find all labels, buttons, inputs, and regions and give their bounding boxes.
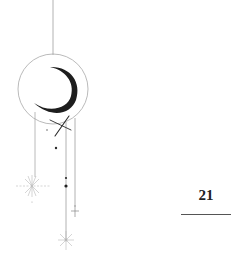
dot-icon [65, 177, 67, 179]
page-number: 21 [181, 186, 231, 204]
page-number-underline [181, 214, 231, 215]
moon-star-ornament [0, 0, 242, 262]
dot-icon [64, 184, 67, 187]
dot-icon [46, 129, 47, 130]
dot-icon [55, 147, 57, 149]
sparkle-icon [16, 175, 50, 197]
circle-frame [18, 54, 88, 124]
crescent-moon-icon [34, 67, 78, 113]
dot-icon [31, 201, 32, 202]
star-cross-icon [50, 116, 71, 136]
small-star-icon [71, 205, 79, 217]
sparkle-icon [58, 231, 74, 250]
